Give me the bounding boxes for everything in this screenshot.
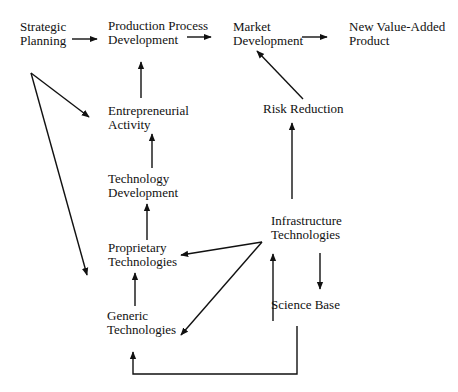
- arrow-infrastructure-to-generic: [181, 242, 262, 335]
- node-proprietary-technologies: Proprietary Technologies: [108, 241, 177, 269]
- node-label-line2: Technologies: [271, 228, 342, 242]
- node-label-line2: Development: [108, 33, 208, 47]
- diagram-edges: [0, 0, 458, 392]
- node-technology-development: Technology Development: [108, 172, 178, 200]
- node-risk-reduction: Risk Reduction: [263, 102, 344, 116]
- node-label-line1: Science Base: [271, 298, 340, 312]
- node-label-line1: Production Process: [108, 19, 208, 33]
- node-label-line1: Risk Reduction: [263, 102, 344, 116]
- arrow-risk-to-market: [257, 51, 303, 99]
- node-production-process-development: Production Process Development: [108, 19, 208, 47]
- arrow-strategic-to-generic: [31, 73, 87, 275]
- node-label-line1: Infrastructure: [271, 214, 342, 228]
- node-strategic-planning: Strategic Planning: [20, 20, 66, 48]
- node-label-line1: Generic: [107, 309, 176, 323]
- arrow-infrastructure-to-proprietary: [181, 242, 262, 255]
- node-generic-technologies: Generic Technologies: [107, 309, 176, 337]
- node-new-value-added-product: New Value-Added Product: [349, 20, 445, 48]
- node-market-development: Market Development: [233, 20, 303, 48]
- node-entrepreneurial-activity: Entrepreneurial Activity: [108, 104, 189, 132]
- node-label-line1: Strategic: [20, 20, 66, 34]
- node-label-line1: Market: [233, 20, 303, 34]
- node-label-line2: Product: [349, 34, 445, 48]
- node-label-line2: Technologies: [107, 323, 176, 337]
- node-label-line1: Entrepreneurial: [108, 104, 189, 118]
- node-label-line1: New Value-Added: [349, 20, 445, 34]
- node-label-line2: Development: [108, 186, 178, 200]
- node-science-base: Science Base: [271, 298, 340, 312]
- node-label-line1: Technology: [108, 172, 178, 186]
- node-label-line2: Planning: [20, 34, 66, 48]
- node-label-line1: Proprietary: [108, 241, 177, 255]
- node-label-line2: Technologies: [108, 255, 177, 269]
- node-infrastructure-technologies: Infrastructure Technologies: [271, 214, 342, 242]
- node-label-line2: Development: [233, 34, 303, 48]
- node-label-line2: Activity: [108, 118, 189, 132]
- arrow-strategic-to-entrepreneurial: [31, 73, 89, 117]
